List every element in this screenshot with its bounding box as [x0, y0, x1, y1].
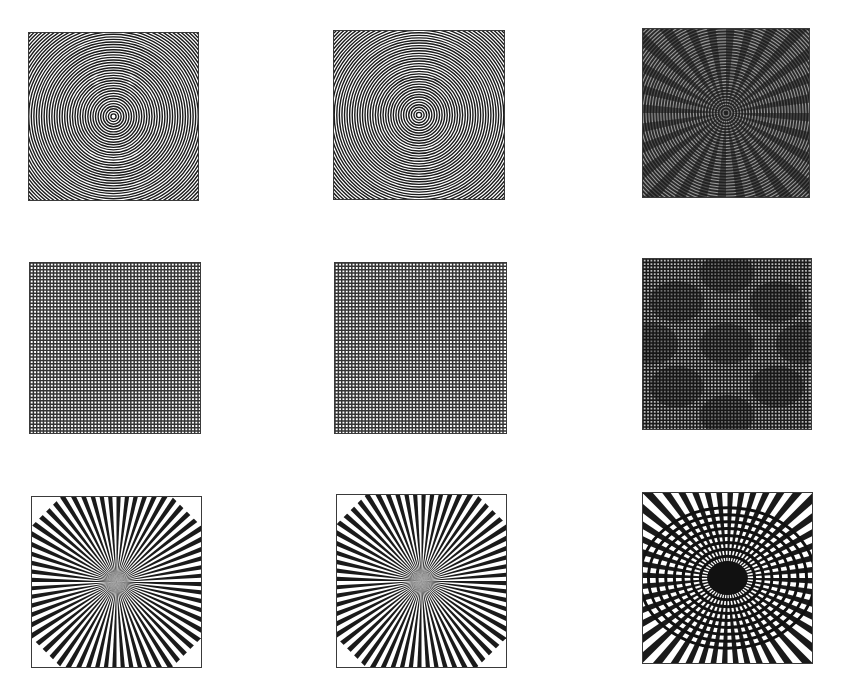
panel-siemens-star-reconstructed [336, 494, 507, 668]
panel-siemens-star-original [31, 496, 202, 668]
panel-concentric-circles-original [28, 32, 199, 201]
panel-square-grid-original [29, 262, 201, 434]
concentric-circles-graphic [29, 33, 198, 200]
siemens-star-graphic [32, 497, 201, 667]
siemens-star-graphic [337, 495, 506, 667]
concentric-circles-graphic [334, 31, 504, 199]
panel-concentric-circles-aliased-moire [642, 28, 810, 198]
panel-concentric-circles-reconstructed [333, 30, 505, 200]
concentric-circles-graphic [643, 29, 809, 197]
panel-square-grid-reconstructed [334, 262, 507, 434]
siemens-star-graphic [643, 493, 812, 663]
square-grid-graphic [643, 259, 811, 429]
square-grid-graphic [30, 263, 200, 433]
panel-square-grid-aliased-moire [642, 258, 812, 430]
square-grid-graphic [335, 263, 506, 433]
panel-siemens-star-aliased-moire [642, 492, 813, 664]
